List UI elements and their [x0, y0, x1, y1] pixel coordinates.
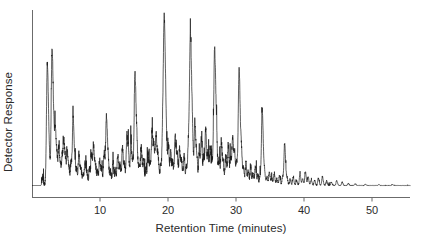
x-tick-label: 20: [153, 204, 183, 216]
x-tick-label: 30: [221, 204, 251, 216]
x-tick-label: 10: [85, 204, 115, 216]
chromatogram-figure: Detector Response Retention Time (minute…: [0, 0, 423, 244]
x-axis-ticks: [100, 198, 372, 202]
x-tick-label: 40: [289, 204, 319, 216]
x-tick-label: 50: [357, 204, 387, 216]
y-axis-label: Detector Response: [0, 0, 16, 244]
x-axis-label: Retention Time (minutes): [32, 222, 410, 234]
chromatogram-trace: [32, 13, 410, 186]
